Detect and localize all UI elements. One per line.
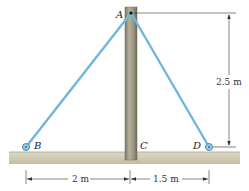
right-span-label: 1.5 m	[153, 174, 179, 184]
label-A: A	[115, 9, 123, 20]
cable-AB	[26, 13, 131, 147]
anchor-B-pin-icon	[25, 146, 27, 148]
cable-AD	[131, 13, 209, 147]
label-B: B	[33, 140, 41, 151]
ground	[9, 152, 240, 164]
anchor-D-pin-icon	[208, 146, 210, 148]
pole-cable-diagram: A B C D 2.5 m 2 m 1.5 m	[0, 0, 249, 191]
span-dimensions	[26, 170, 209, 184]
pole	[125, 7, 137, 160]
label-D: D	[192, 140, 201, 151]
point-A-marker	[129, 11, 132, 14]
left-span-label: 2 m	[72, 174, 90, 184]
label-C: C	[140, 140, 148, 151]
height-dimension-label: 2.5 m	[216, 77, 242, 87]
